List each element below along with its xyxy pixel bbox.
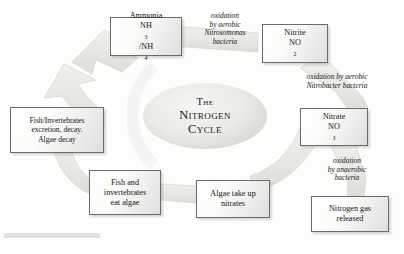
annotation-nitrosomonas-line-4: bacteria: [186, 38, 264, 47]
node-nitrate: Nitrate NO3: [300, 108, 368, 146]
node-nitrogen-gas-line-1: Nitrogen gas: [329, 204, 371, 214]
node-ammonia: Ammonia NH3/NH4: [110, 17, 182, 56]
annotation-nitrobacter: oxidation by aerobic Nitrobacter bacteri…: [281, 73, 393, 90]
arrow-algae-uptake-to-fish-eat: [161, 184, 196, 203]
formula-sub-2: 4: [145, 55, 148, 61]
node-nitrate-formula: NO3: [328, 122, 340, 143]
node-fish-eat-algae: Fish and invertebrates eat algae: [89, 170, 161, 215]
formula-mid: /NH: [139, 42, 153, 52]
node-fish-eat-line-2: invertebrates: [104, 188, 146, 198]
node-fish-eat-line-3: eat algae: [111, 198, 140, 208]
formula-sub-1: 2: [294, 52, 297, 58]
node-fish-eat-line-1: Fish and: [111, 178, 139, 188]
nitrogen-cycle-figure: The Nitrogen Cycle Ammonia NH3/NH4 Nitri…: [0, 0, 404, 254]
annotation-anaerobic: oxidation by anaerobic bacteria: [304, 157, 390, 183]
node-nitrogen-gas: Nitrogen gas released: [311, 196, 389, 232]
scan-artifact-bar: [4, 233, 100, 238]
node-nitrite: Nitrite NO2: [262, 24, 328, 63]
node-fish-excrete-line-2: excretion, decay.: [31, 125, 82, 134]
formula-base: NH: [139, 21, 153, 31]
node-algae-uptake: Algae take up nitrates: [196, 180, 270, 218]
annotation-anaerobic-line-3: bacteria: [304, 174, 390, 183]
title-line-1: The: [197, 96, 214, 108]
node-algae-uptake-line-2: nitrates: [221, 199, 245, 209]
node-nitrogen-gas-line-2: released: [337, 214, 364, 224]
formula-base: NO: [328, 122, 340, 132]
page-title: The Nitrogen Cycle: [143, 86, 267, 146]
formula-sub-1: 3: [145, 34, 148, 40]
node-nitrate-label: Nitrate: [323, 112, 346, 122]
node-fish-excrete-line-1: Fish/Invertebrates: [30, 116, 85, 125]
annotation-nitrosomonas: oxidation by aerobic Nitrosomonas bacter…: [186, 12, 264, 47]
title-line-2: Nitrogen: [179, 108, 231, 122]
node-fish-invertebrates-excretion: Fish/Invertebrates excretion, decay. Alg…: [10, 107, 104, 153]
node-algae-uptake-line-1: Algae take up: [210, 189, 255, 199]
title-line-3: Cycle: [188, 122, 222, 136]
node-ammonia-formula: NH3/NH4: [139, 21, 153, 62]
node-nitrite-label: Nitrite: [284, 28, 305, 38]
node-nitrite-formula: NO2: [289, 38, 301, 59]
node-ammonia-label: Ammonia: [130, 11, 163, 21]
node-fish-excrete-line-3: Algae decay: [38, 135, 76, 144]
annotation-nitrobacter-line-2: Nitrobacter bacteria: [281, 82, 393, 91]
formula-base: NO: [289, 38, 301, 48]
arrow-fish-eat-to-fish-excrete: [54, 146, 89, 194]
formula-sub-1: 3: [333, 135, 336, 141]
